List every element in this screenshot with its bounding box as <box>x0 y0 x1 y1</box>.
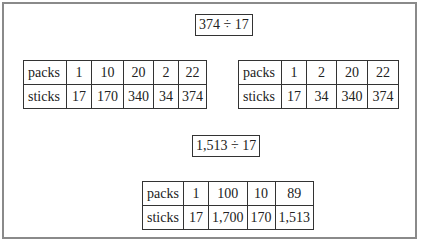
cell: 22 <box>368 61 399 85</box>
cell: 374 <box>179 85 207 109</box>
cell: 2 <box>307 61 337 85</box>
cell: 22 <box>179 61 207 85</box>
cell: 340 <box>124 85 154 109</box>
cell: 1,513 <box>275 206 314 230</box>
cell: 89 <box>275 182 314 206</box>
expression-374-div-17: 374 ÷ 17 <box>195 14 253 36</box>
packs-row: packs 1 100 10 89 <box>143 182 314 206</box>
cell: 2 <box>154 61 179 85</box>
row-label: packs <box>143 182 184 206</box>
sticks-row: sticks 17 1,700 170 1,513 <box>143 206 314 230</box>
row-label: packs <box>24 61 67 85</box>
cell: 17 <box>282 85 307 109</box>
cell: 20 <box>124 61 154 85</box>
cell: 374 <box>368 85 399 109</box>
row-label: sticks <box>143 206 184 230</box>
ratio-table-right: packs 1 2 20 22 sticks 17 34 340 374 <box>238 60 399 109</box>
cell: 34 <box>307 85 337 109</box>
cell: 10 <box>247 182 275 206</box>
cell: 340 <box>337 85 368 109</box>
cell: 170 <box>247 206 275 230</box>
sticks-row: sticks 17 170 340 34 374 <box>24 85 207 109</box>
cell: 100 <box>209 182 248 206</box>
ratio-table-left: packs 1 10 20 2 22 sticks 17 170 340 34 … <box>23 60 207 109</box>
cell: 1 <box>184 182 209 206</box>
expression-1513-div-17: 1,513 ÷ 17 <box>192 135 260 157</box>
packs-row: packs 1 10 20 2 22 <box>24 61 207 85</box>
row-label: packs <box>239 61 282 85</box>
cell: 170 <box>92 85 124 109</box>
cell: 10 <box>92 61 124 85</box>
row-label: sticks <box>239 85 282 109</box>
cell: 1 <box>67 61 92 85</box>
cell: 1,700 <box>209 206 248 230</box>
packs-row: packs 1 2 20 22 <box>239 61 399 85</box>
cell: 20 <box>337 61 368 85</box>
sticks-row: sticks 17 34 340 374 <box>239 85 399 109</box>
ratio-table-bottom: packs 1 100 10 89 sticks 17 1,700 170 1,… <box>142 181 314 230</box>
cell: 17 <box>184 206 209 230</box>
cell: 17 <box>67 85 92 109</box>
cell: 1 <box>282 61 307 85</box>
cell: 34 <box>154 85 179 109</box>
row-label: sticks <box>24 85 67 109</box>
